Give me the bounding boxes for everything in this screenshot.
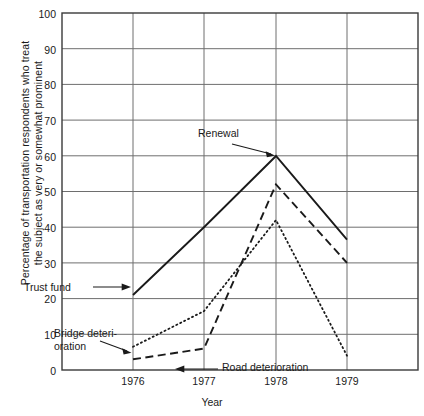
chart-figure: Percentage of transportation respondents… (0, 0, 424, 416)
annotation-arrows (93, 144, 275, 373)
series-line-renewal (133, 156, 347, 295)
series-line-bridge-deterioration (133, 220, 347, 356)
x-tick-1979: 1979 (324, 375, 370, 387)
series-line-road-deterioration (133, 184, 347, 359)
x-tick-1976: 1976 (110, 375, 156, 387)
x-tick-1977: 1977 (181, 375, 227, 387)
x-tick-1978: 1978 (253, 375, 299, 387)
annotation-renewal: Renewal (198, 127, 239, 140)
arrow-renewal (232, 144, 271, 154)
x-axis-label: Year (0, 396, 424, 408)
annotation-trust-fund: Trust fund (24, 281, 71, 294)
annotation-bridge-deterioration: Bridge deteri- oration (54, 327, 117, 352)
annotation-road-deterioration: Road deterioration (222, 361, 308, 374)
x-axis-tick-labels: 1976 1977 1978 1979 (0, 375, 424, 391)
plot-canvas (0, 0, 424, 416)
